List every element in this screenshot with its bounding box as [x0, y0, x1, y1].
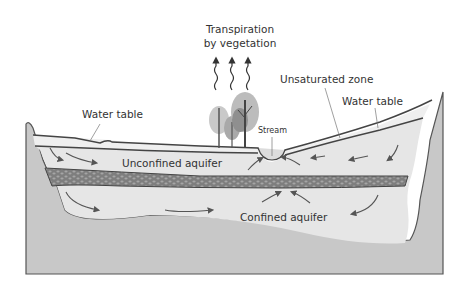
label-unsaturated-zone: Unsaturated zone: [280, 73, 373, 85]
label-transpiration-line2: by vegetation: [204, 37, 277, 49]
label-transpiration-line1: Transpiration: [205, 23, 274, 35]
transpiration-arrows: [215, 60, 250, 90]
label-stream: Stream: [258, 126, 287, 135]
label-water-table-right: Water table: [342, 95, 403, 107]
label-water-table-left: Water table: [82, 108, 143, 120]
label-unconfined-aquifer: Unconfined aquifer: [122, 157, 223, 169]
label-confined-aquifer: Confined aquifer: [240, 211, 328, 223]
groundwater-diagram: Transpiration by vegetation Water table …: [0, 0, 467, 294]
trees: [209, 92, 259, 148]
